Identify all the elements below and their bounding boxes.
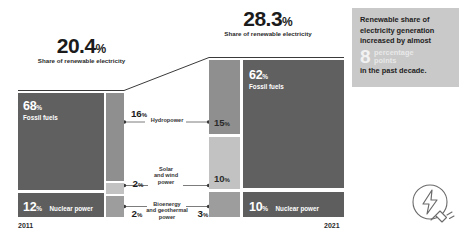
callout-line-1: Renewable share of: [360, 15, 452, 26]
headline-2011-caption: Share of renewable electricity: [14, 58, 149, 65]
bar-2011-solar-wind: [106, 183, 124, 194]
bar-2011-fossil-label: 68% Fossil fuels: [23, 97, 58, 121]
bar-2021-fossil-fuels: 62% Fossil fuels: [243, 60, 344, 188]
year-label-2011: 2011: [18, 222, 33, 229]
bar-2021-fossil-label: 62% Fossil fuels: [249, 66, 284, 90]
callout-card: Renewable share of electricity generatio…: [352, 8, 459, 87]
headline-2011-value: 20.4%: [14, 35, 149, 56]
bar-2021-hydropower: 15%: [209, 60, 240, 134]
callout-line-3: increased by almost: [360, 36, 452, 47]
bolt-plug-icon: [410, 182, 458, 230]
bar-2011-nuclear-label: 12% Nuclear power: [23, 198, 93, 215]
bar-2021-nuclear-power: 10% Nuclear power: [243, 192, 344, 217]
bar-2011-bioenergy: [106, 196, 124, 217]
bar-2011-hydropower: [106, 93, 124, 181]
bar-2011-fossil-fuels: 68% Fossil fuels: [18, 93, 104, 190]
connector-bioenergy-right-value: 3%: [192, 208, 214, 219]
headline-2011: 20.4% Share of renewable electricity: [14, 35, 149, 65]
bar-2021-hydropower-label: 15%: [214, 117, 230, 128]
callout-line-2: electricity generation: [360, 26, 452, 37]
infographic-root: 20.4% Share of renewable electricity 28.…: [0, 0, 470, 244]
bar-2021-solar-wind-label: 10%: [214, 173, 230, 184]
callout-line-4: in the past decade.: [360, 66, 452, 77]
headline-2021-value: 28.3%: [198, 8, 338, 29]
connector-hydropower-label: Hydropower: [144, 117, 190, 123]
callout-emphasis-number: 8: [360, 48, 370, 66]
headline-2021-caption: Share of renewable electricity: [198, 31, 338, 38]
bar-2021-solar-wind: 10%: [209, 137, 240, 189]
connector-solar-wind-label: Solar and wind power: [146, 166, 186, 185]
headline-2021: 28.3% Share of renewable electricity: [198, 8, 338, 38]
year-label-2021: 2021: [324, 222, 340, 229]
bar-2011-nuclear-power: 12% Nuclear power: [18, 193, 104, 217]
callout-emphasis: 8 percentage points: [360, 48, 452, 66]
callout-emphasis-text: percentage points: [374, 49, 413, 66]
bar-2021-nuclear-label: 10% Nuclear power: [249, 198, 319, 215]
callout-emphasis-line-2: points: [374, 57, 413, 66]
connector-bioenergy-label: Bioenergy and geothermal power: [141, 201, 193, 220]
